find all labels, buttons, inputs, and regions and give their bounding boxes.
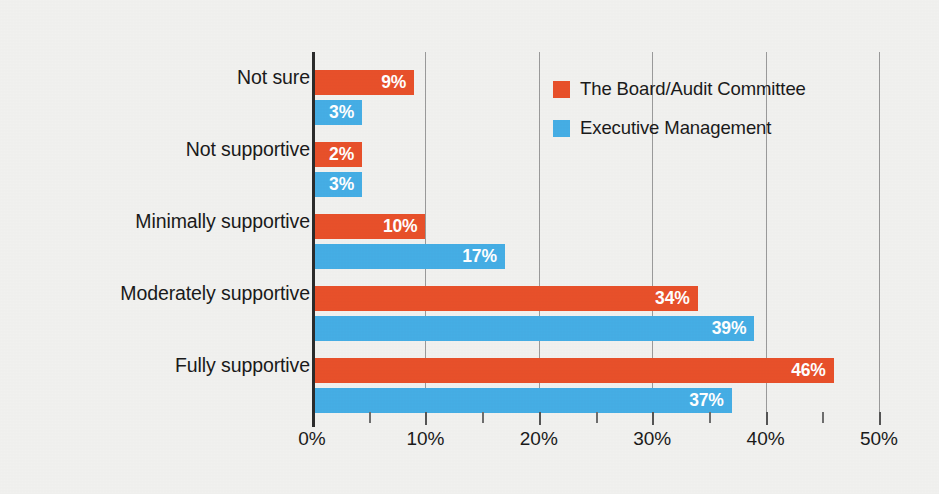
- y-axis-line: [312, 52, 315, 412]
- x-axis-tick-label: 0%: [272, 428, 352, 450]
- bar-value-label: 3%: [329, 102, 362, 123]
- x-axis-minor-tick: [482, 412, 484, 423]
- bar-chart: The Board/Audit CommitteeExecutive Manag…: [0, 0, 939, 494]
- legend-label: Executive Management: [580, 117, 771, 139]
- bar-executive: 3%: [312, 172, 362, 197]
- bar-value-label: 10%: [383, 216, 425, 237]
- x-axis-tick-label: 30%: [612, 428, 692, 450]
- bar-executive: 17%: [312, 244, 505, 269]
- chart-legend: The Board/Audit CommitteeExecutive Manag…: [553, 74, 806, 152]
- x-axis-minor-tick: [596, 412, 598, 423]
- x-axis-minor-tick: [369, 412, 371, 423]
- category-label: Minimally supportive: [10, 210, 310, 233]
- legend-swatch-icon: [553, 120, 570, 137]
- x-axis-tick: [539, 412, 541, 425]
- category-label: Not supportive: [10, 138, 310, 161]
- category-label: Fully supportive: [10, 354, 310, 377]
- bar-value-label: 34%: [655, 288, 697, 309]
- bar-board: 34%: [312, 286, 698, 311]
- x-axis-tick: [766, 412, 768, 425]
- bar-executive: 37%: [312, 388, 732, 413]
- x-axis-tick: [312, 412, 315, 427]
- legend-item[interactable]: The Board/Audit Committee: [553, 74, 806, 104]
- bar-value-label: 3%: [329, 174, 362, 195]
- bar-value-label: 2%: [329, 144, 362, 165]
- bar-executive: 3%: [312, 100, 362, 125]
- x-axis-tick-label: 20%: [499, 428, 579, 450]
- legend-label: The Board/Audit Committee: [580, 78, 806, 100]
- category-label: Not sure: [10, 66, 310, 89]
- gridline-50: [879, 52, 880, 412]
- x-axis-tick: [425, 412, 427, 425]
- bar-board: 2%: [312, 142, 362, 167]
- x-axis-tick: [879, 412, 881, 425]
- bar-value-label: 39%: [712, 318, 754, 339]
- bar-board: 9%: [312, 70, 414, 95]
- x-axis-tick-label: 40%: [726, 428, 806, 450]
- bar-executive: 39%: [312, 316, 754, 341]
- legend-swatch-icon: [553, 81, 570, 98]
- x-axis-tick-label: 10%: [385, 428, 465, 450]
- category-label: Moderately supportive: [10, 282, 310, 305]
- bar-value-label: 46%: [791, 360, 833, 381]
- x-axis-tick-label: 50%: [839, 428, 919, 450]
- legend-item[interactable]: Executive Management: [553, 113, 806, 143]
- bar-value-label: 17%: [462, 246, 504, 267]
- x-axis-minor-tick: [822, 412, 824, 423]
- bar-board: 10%: [312, 214, 425, 239]
- bar-value-label: 9%: [381, 72, 414, 93]
- x-axis-minor-tick: [709, 412, 711, 423]
- x-axis-tick: [652, 412, 654, 425]
- bar-value-label: 37%: [689, 390, 731, 411]
- bar-board: 46%: [312, 358, 834, 383]
